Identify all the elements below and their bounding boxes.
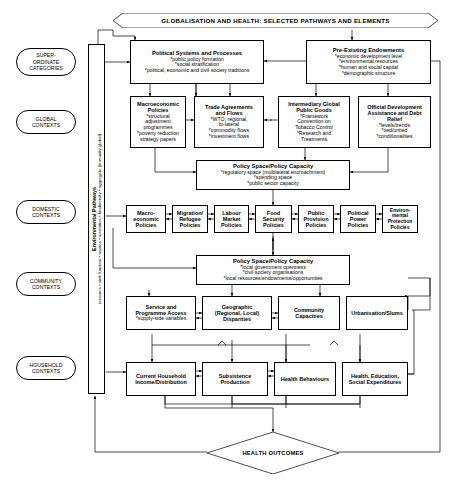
box-food-security-policies-title: Food Security Policies bbox=[263, 210, 285, 228]
box-official-development-assistance-line-3: *conditionalities bbox=[376, 134, 412, 140]
box-political-systems: Political Systems and Processes *public … bbox=[130, 40, 264, 84]
box-pre-existing-endowments: Pre-Existing Endowments *economic develo… bbox=[306, 40, 431, 84]
diagram-canvas: GLOBALISATION AND HEALTH: SELECTED PATHW… bbox=[0, 0, 451, 493]
category-community: COMMUNITY CONTEXTS bbox=[16, 272, 76, 296]
category-domestic-label: DOMESTIC CONTEXTS bbox=[32, 206, 60, 219]
box-current-household-income-title: Current Household Income/Distribution bbox=[135, 373, 187, 385]
box-health-behaviours: Health Behaviours bbox=[274, 362, 336, 396]
box-health-education-social-expenditures-title: Health, Education, Social Expenditures bbox=[349, 373, 402, 385]
box-intermediary-global-public-goods-title: Intermediary Global Public Goods bbox=[288, 101, 340, 113]
box-policy-space-global-line-3: *public sector capacity bbox=[247, 181, 299, 187]
box-trade-agreements-line-4: *investment flows bbox=[209, 134, 249, 140]
box-environmental-protection-policies-title: Environ- mental Protection Policies bbox=[388, 208, 413, 230]
box-intermediary-global-public-goods-line-5: Treatments bbox=[301, 137, 327, 143]
box-urbanisation-slums: Urbanisation/Slums bbox=[346, 296, 408, 330]
box-macroeconomic-policies: Macroeconomic Policies *structural adjus… bbox=[130, 96, 186, 148]
environmental-pathways-spine: Environmental Pathways resource • sink f… bbox=[88, 44, 105, 394]
box-political-power-policies: Political Power Policies bbox=[340, 205, 376, 233]
category-super-ordinate: SUPER- ORDINATE CATEGORIES bbox=[16, 48, 76, 76]
health-outcomes-node: HEALTH OUTCOMES bbox=[207, 432, 339, 474]
box-official-development-assistance-title: Official Development Assistance and Debt… bbox=[367, 104, 422, 122]
health-outcomes-label: HEALTH OUTCOMES bbox=[242, 450, 303, 456]
box-political-power-policies-title: Political Power Policies bbox=[347, 210, 368, 228]
box-trade-agreements-title: Trade Agreements and Flows bbox=[205, 104, 253, 116]
category-community-label: COMMUNITY CONTEXTS bbox=[30, 278, 62, 291]
box-trade-agreements: Trade Agreements and Flows *WTO, regiona… bbox=[194, 96, 264, 148]
box-macro-economic-policies: Macro- economic Policies bbox=[126, 205, 166, 233]
box-geographic-disparities-title: Geographic (Regional, Local) Disparities bbox=[215, 304, 259, 322]
box-community-capacities: Community Capacities bbox=[278, 296, 340, 330]
category-global-label: GLOBAL CONTEXTS bbox=[32, 116, 60, 129]
box-subsistence-production-title: Subsistence Production bbox=[219, 373, 251, 385]
box-food-security-policies: Food Security Policies bbox=[255, 205, 292, 233]
box-policy-space-community-line-3: *local resources/endowments/opportunitie… bbox=[224, 276, 323, 282]
box-macroeconomic-policies-title: Macroeconomic Policies bbox=[137, 101, 179, 113]
box-labour-market-policies: Labour Market Policies bbox=[214, 205, 249, 233]
box-policy-space-global: Policy Space/Policy Capacity *regulatory… bbox=[196, 160, 350, 190]
box-geographic-disparities: Geographic (Regional, Local) Disparities bbox=[202, 296, 272, 330]
box-environmental-protection-policies: Environ- mental Protection Policies bbox=[382, 205, 418, 233]
box-pre-existing-endowments-line-4: *demographic structure bbox=[342, 71, 396, 77]
box-urbanisation-slums-title: Urbanisation/Slums bbox=[351, 310, 403, 316]
category-household-label: HOUSEHOLD CONTEXTS bbox=[30, 362, 63, 375]
box-current-household-income: Current Household Income/Distribution bbox=[126, 362, 196, 396]
spine-text-group: Environmental Pathways resource • sink f… bbox=[91, 134, 102, 304]
box-migration-refugee-policies-title: Migration/ Refugee Policies bbox=[177, 210, 203, 228]
box-macro-economic-policies-title: Macro- economic Policies bbox=[133, 210, 159, 228]
category-domestic: DOMESTIC CONTEXTS bbox=[16, 200, 76, 224]
category-global: GLOBAL CONTEXTS bbox=[16, 110, 76, 134]
box-public-provision-policies-title: Public Provision Policies bbox=[303, 210, 328, 228]
title-banner: GLOBALISATION AND HEALTH: SELECTED PATHW… bbox=[113, 13, 438, 28]
box-macroeconomic-policies-line-4: strategy papers bbox=[140, 137, 176, 143]
box-health-behaviours-title: Health Behaviours bbox=[281, 376, 329, 382]
box-official-development-assistance: Official Development Assistance and Debt… bbox=[358, 96, 431, 148]
box-service-programme-access-line-1: *supply-side variables bbox=[136, 316, 186, 322]
box-labour-market-policies-title: Labour Market Policies bbox=[221, 210, 242, 228]
category-household: HOUSEHOLD CONTEXTS bbox=[16, 356, 76, 380]
box-subsistence-production: Subsistence Production bbox=[202, 362, 268, 396]
banner-text: GLOBALISATION AND HEALTH: SELECTED PATHW… bbox=[161, 17, 389, 24]
box-policy-space-community: Policy Space/Policy Capacity *local gove… bbox=[196, 255, 350, 285]
box-migration-refugee-policies: Migration/ Refugee Policies bbox=[172, 205, 208, 233]
category-super-ordinate-label: SUPER- ORDINATE CATEGORIES bbox=[29, 52, 63, 72]
box-public-provision-policies: Public Provision Policies bbox=[298, 205, 334, 233]
box-political-systems-line-3: *political, economic and civil society t… bbox=[145, 68, 250, 74]
spine-subtitle: resource • sink function • wastes • amen… bbox=[97, 134, 102, 304]
box-intermediary-global-public-goods: Intermediary Global Public Goods *Framew… bbox=[278, 96, 350, 148]
box-community-capacities-title: Community Capacities bbox=[294, 307, 324, 319]
box-health-education-social-expenditures: Health, Education, Social Expenditures bbox=[342, 362, 408, 396]
box-service-programme-access: Service and Programme Access *supply-sid… bbox=[126, 296, 196, 330]
